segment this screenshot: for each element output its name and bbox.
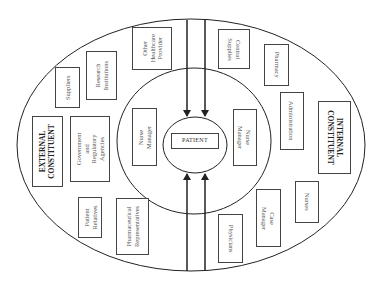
box-nurse-manager-right: Nurse Manager: [233, 109, 257, 166]
box-patient-relatives: Patient Relatives: [78, 197, 102, 238]
box-case-manager: Case Manager: [256, 189, 281, 247]
external-constituent-label: EXTERNAL CONSTITUENT: [39, 124, 56, 179]
box-research-institutions: Research Institutions: [86, 51, 117, 100]
box-other-healthcare-provider: Other Healthcare Provider: [132, 27, 172, 70]
box-patient: PATIENT: [171, 133, 219, 149]
internal-constituent-label: INTERNAL CONSTITUENT: [326, 110, 343, 165]
box-administration: Administration: [280, 92, 304, 150]
box-pharmacy: Pharmacy: [264, 44, 289, 86]
box-nurses: Nurses: [295, 181, 319, 223]
patient-label: PATIENT: [182, 137, 208, 145]
box-physicians: Physicians: [218, 214, 243, 263]
external-constituent-title: EXTERNAL CONSTITUENT: [32, 116, 63, 187]
box-suppliers: Suppliers: [55, 67, 80, 108]
box-nurse-manager-left: Nurse Manager: [132, 108, 157, 166]
box-government-regulatory-agencies: Government and Regulatory Agencies: [70, 116, 110, 182]
internal-constituent-title: INTERNAL CONSTITUENT: [318, 101, 351, 174]
box-pharmaceutical-representatives: Pharmaceutical Representatives: [116, 198, 149, 255]
box-central-supplies: Central Supplies: [218, 29, 250, 69]
